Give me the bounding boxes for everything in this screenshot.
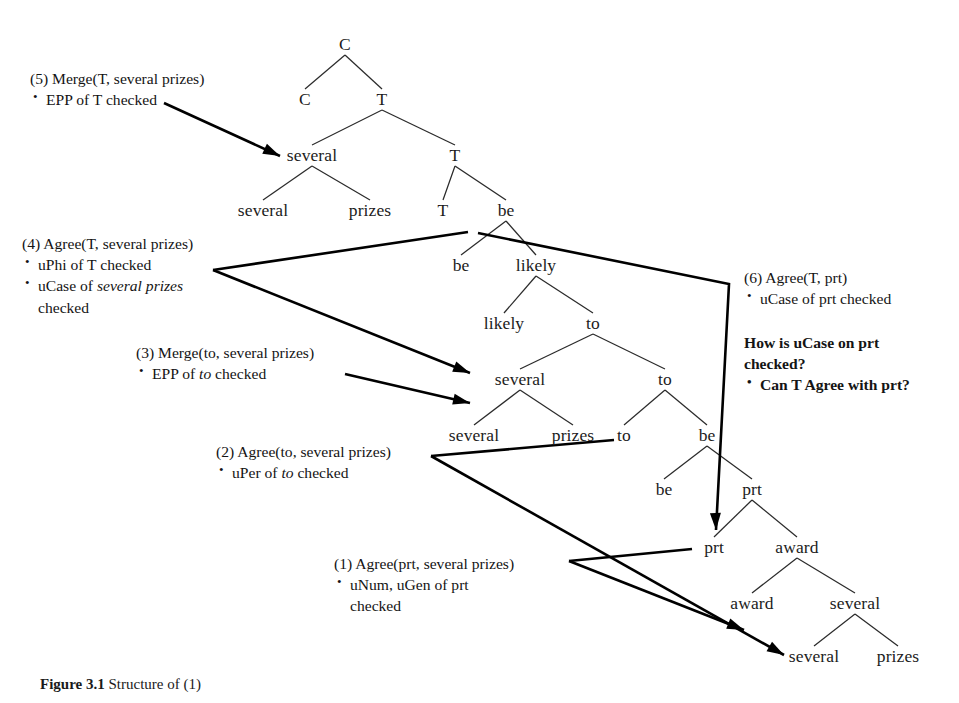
tree-node-several-1: several — [287, 147, 337, 165]
ann-4-header: (4) Agree(T, several prizes) — [22, 233, 193, 254]
ann-4-bullet-2-text: uCase of — [38, 277, 97, 294]
branch-t-2-to-be-1 — [455, 166, 506, 200]
arrow-5-head — [262, 144, 282, 161]
ann-4: (4) Agree(T, several prizes)uPhi of T ch… — [22, 233, 193, 318]
ann-3-bullet-1-text: EPP of — [152, 365, 199, 382]
branch-several-3-to-prizes-2 — [520, 390, 573, 425]
branch-c-root-to-c-spec — [305, 55, 345, 89]
tree-node-likely-2: likely — [484, 315, 524, 333]
arrow-1-down — [569, 561, 744, 630]
ann-4-bullet-2: uCase of several prizeschecked — [22, 275, 193, 317]
ann-5-bullet-1: EPP of T checked — [30, 89, 204, 110]
figure-caption-text: Structure of (1) — [108, 676, 200, 692]
tree-node-to-1: to — [586, 315, 600, 333]
tree-node-be-4: be — [656, 481, 673, 499]
branch-award-1-to-award-2 — [752, 558, 797, 593]
ann-1: (1) Agree(prt, several prizes)uNum, uGen… — [334, 553, 514, 617]
ann-3-bullet-1: EPP of to checked — [136, 363, 314, 384]
tree-node-several-4: several — [449, 427, 499, 445]
ann-1-bullet-list: uNum, uGen of prtchecked — [334, 574, 514, 616]
tree-node-t-1: T — [377, 91, 388, 109]
branch-to-2-to-be-3 — [665, 390, 707, 425]
tree-node-c-root: C — [339, 36, 351, 54]
arrow-3 — [345, 374, 470, 403]
question-line-1: How is uCase on prt — [744, 332, 910, 353]
ann-2-header: (2) Agree(to, several prizes) — [216, 441, 391, 462]
branch-several-1-to-prizes-1 — [312, 166, 370, 200]
branch-likely-1-to-likely-2 — [504, 276, 536, 313]
branch-be-3-to-prt-1 — [707, 446, 752, 479]
ann-5-header: (5) Merge(T, several prizes) — [30, 68, 204, 89]
ann-5-bullet-1-text: EPP of T checked — [46, 91, 157, 108]
branch-c-root-to-t-1 — [345, 55, 382, 89]
question-block: How is uCase on prt checked? Can T Agree… — [744, 332, 910, 396]
tree-node-be-1: be — [498, 202, 515, 220]
tree-node-several-3: several — [495, 371, 545, 389]
branch-t-1-to-t-2 — [382, 110, 455, 145]
branch-several-5-to-prizes-3 — [855, 614, 898, 646]
branch-be-1-to-likely-1 — [506, 221, 536, 255]
ann-2-bullet-1-text: to — [281, 464, 293, 481]
question-line-2: checked? — [744, 353, 910, 374]
arrow-1-up — [569, 549, 692, 561]
tree-node-prt-1: prt — [742, 481, 762, 499]
tree-node-likely-1: likely — [516, 257, 556, 275]
question-bullet: Can T Agree with prt? — [744, 374, 910, 395]
branch-several-3-to-several-4 — [474, 390, 520, 425]
branch-prt-1-to-prt-2 — [714, 500, 752, 537]
branch-be-1-to-be-2 — [461, 221, 506, 255]
arrow-5 — [164, 103, 280, 156]
figure-caption-label: Figure 3.1 — [40, 676, 105, 692]
tree-node-prizes-2: prizes — [552, 427, 594, 445]
branch-several-1-to-several-2 — [263, 166, 312, 200]
arrow-6-head — [710, 513, 722, 530]
arrow-3-head — [452, 394, 471, 409]
ann-3-header: (3) Merge(to, several prizes) — [136, 342, 314, 363]
tree-node-prizes-3: prizes — [877, 648, 919, 666]
ann-4-bullet-1-text: uPhi of T checked — [38, 256, 151, 273]
ann-4-bullet-list: uPhi of T checkeduCase of several prizes… — [22, 254, 193, 318]
branch-to-2-to-to-3 — [624, 390, 665, 425]
tree-node-to-2: to — [658, 371, 672, 389]
ann-2-bullet-list: uPer of to checked — [216, 462, 391, 483]
question-bullet-list: Can T Agree with prt? — [744, 374, 910, 395]
ann-3-bullet-list: EPP of to checked — [136, 363, 314, 384]
arrow-4-up — [213, 232, 468, 270]
ann-1-header: (1) Agree(prt, several prizes) — [334, 553, 514, 574]
branch-to-1-to-to-2 — [593, 334, 665, 369]
tree-node-c-spec: C — [299, 91, 311, 109]
figure-canvas: CCTseveralTseveralprizesTbebelikelylikel… — [0, 0, 959, 703]
tree-node-to-3: to — [617, 427, 631, 445]
ann-4-bullet-2-cont: checked — [38, 297, 193, 318]
tree-node-several-6: several — [789, 648, 839, 666]
tree-node-award-2: award — [730, 595, 773, 613]
ann-2-bullet-1-text: checked — [294, 464, 349, 481]
arrow-2-down-head — [767, 642, 787, 660]
ann-2-bullet-1: uPer of to checked — [216, 462, 391, 483]
ann-2: (2) Agree(to, several prizes)uPer of to … — [216, 441, 391, 483]
arrow-1-down-head — [726, 619, 746, 636]
ann-6-bullet-1: uCase of prt checked — [744, 288, 891, 309]
ann-1-bullet-1-text: uNum, uGen of prt — [350, 576, 469, 593]
tree-node-prizes-1: prizes — [349, 202, 391, 220]
ann-1-bullet-1-cont: checked — [350, 595, 514, 616]
figure-caption: Figure 3.1 Structure of (1) — [40, 676, 201, 693]
ann-6-bullet-1-text: uCase of prt checked — [760, 290, 891, 307]
ann-6: (6) Agree(T, prt)uCase of prt checked — [744, 267, 891, 309]
ann-6-bullet-list: uCase of prt checked — [744, 288, 891, 309]
tree-node-be-2: be — [453, 257, 470, 275]
branch-to-1-to-several-3 — [520, 334, 593, 369]
ann-3-bullet-1-text: to — [199, 365, 211, 382]
branch-t-2-to-t-3 — [443, 166, 455, 200]
ann-3-bullet-1-text: checked — [211, 365, 266, 382]
branch-t-1-to-several-1 — [312, 110, 382, 145]
branch-prt-1-to-award-1 — [752, 500, 797, 537]
tree-node-t-2: T — [450, 147, 461, 165]
ann-4-bullet-1: uPhi of T checked — [22, 254, 193, 275]
ann-4-bullet-2-text: several prizes — [97, 277, 183, 294]
branch-likely-1-to-to-1 — [536, 276, 593, 313]
tree-node-t-3: T — [438, 202, 449, 220]
ann-6-header: (6) Agree(T, prt) — [744, 267, 891, 288]
tree-node-be-3: be — [699, 427, 716, 445]
ann-2-bullet-1-text: uPer of — [232, 464, 281, 481]
